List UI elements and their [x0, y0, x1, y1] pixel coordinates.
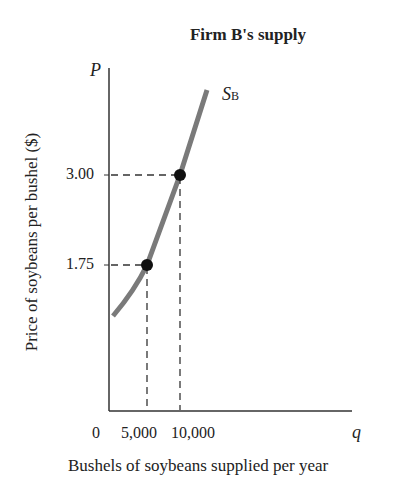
point-5000 — [141, 259, 153, 271]
supply-curve — [113, 90, 207, 316]
x-tick-0: 0 — [92, 424, 100, 442]
chart-plot — [0, 0, 396, 497]
x-axis-label: Bushels of soybeans supplied per year — [68, 456, 328, 476]
x-tick-10000: 10,000 — [171, 424, 215, 442]
y-tick-3: 3.00 — [66, 165, 94, 183]
y-axis-label: Price of soybeans per bushel ($) — [22, 122, 42, 362]
x-axis-symbol: q — [352, 422, 361, 443]
series-label: SB — [222, 84, 239, 105]
y-tick-175: 1.75 — [66, 255, 94, 273]
point-10000 — [174, 169, 186, 181]
x-tick-5000: 5,000 — [121, 424, 157, 442]
y-axis-symbol: P — [90, 60, 101, 81]
